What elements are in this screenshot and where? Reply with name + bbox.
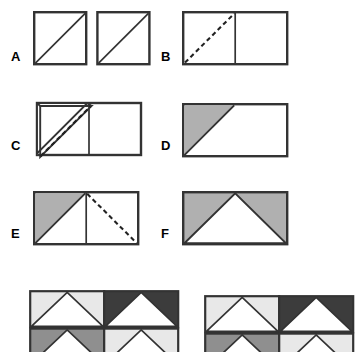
step-label-e: E [11, 227, 20, 240]
step-label-b: B [161, 50, 170, 63]
block-cell-r2c2 [279, 334, 353, 352]
step-label-c: C [11, 139, 20, 152]
step-label-a: A [11, 50, 20, 63]
step-c-diagram [33, 99, 145, 157]
step-label-f: F [161, 227, 169, 240]
square-left-with-diagonal [34, 12, 86, 64]
assembled-block-right [204, 295, 358, 352]
step-e-diagram [33, 191, 141, 247]
block-cell-r1c1 [205, 296, 279, 332]
step-label-d: D [161, 139, 170, 152]
step-b-diagram [182, 11, 290, 67]
block-cell-r2c1 [30, 329, 104, 352]
step-f-diagram [182, 191, 290, 247]
joined-rectangle [183, 12, 287, 64]
step-d-diagram [182, 103, 290, 159]
block-cell-r2c2 [104, 329, 178, 352]
assembled-block-left [29, 290, 183, 352]
block-cell-r1c2 [104, 291, 178, 327]
block-cell-r1c1 [30, 291, 104, 327]
step-a-diagram [33, 11, 151, 67]
block-cell-r2c1 [205, 334, 279, 352]
block-cell-r1c2 [279, 296, 353, 332]
square-right-with-diagonal [97, 12, 149, 64]
